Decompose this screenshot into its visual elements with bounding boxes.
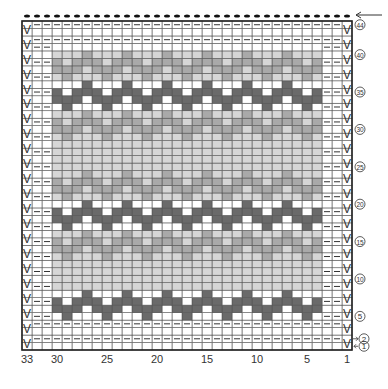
chart-cell: [192, 171, 202, 178]
chart-cell: [232, 126, 242, 133]
chart-cell: [62, 171, 72, 178]
chart-cell: [182, 268, 192, 275]
chart-cell: [182, 51, 192, 58]
chart-cell: [102, 96, 112, 103]
slip-stitch-symbol: V: [23, 157, 31, 171]
chart-cell: [102, 148, 112, 155]
chart-cell: [162, 283, 172, 290]
chart-cell: [222, 290, 232, 297]
chart-cell: [42, 126, 52, 133]
chart-cell: [272, 96, 282, 103]
chart-cell: [272, 43, 282, 50]
chart-cell: [172, 43, 182, 50]
chart-cell: [222, 133, 232, 140]
chart-cell: [272, 51, 282, 58]
chart-cell: [222, 268, 232, 275]
chart-cell: [242, 215, 252, 222]
chart-cell: [152, 28, 162, 35]
chart-cell: [112, 245, 122, 252]
slip-stitch-symbol: V: [343, 112, 351, 126]
chart-cell: [242, 141, 252, 148]
chart-cell: [182, 148, 192, 155]
chart-cell: [52, 96, 62, 103]
chart-cell: [212, 268, 222, 275]
bind-off-dot: [284, 14, 290, 17]
chart-cell: [142, 81, 152, 88]
chart-cell: [162, 253, 172, 260]
chart-cell: [72, 275, 82, 282]
chart-cell: [282, 141, 292, 148]
chart-cell: [172, 81, 182, 88]
chart-cell: [202, 133, 212, 140]
chart-cell: [152, 148, 162, 155]
chart-cell: [122, 163, 132, 170]
chart-cell: [182, 111, 192, 118]
chart-cell: [222, 193, 232, 200]
chart-cell: [162, 148, 172, 155]
chart-cell: [252, 290, 262, 297]
chart-cell: [82, 238, 92, 245]
chart-cell: [242, 193, 252, 200]
chart-cell: [172, 141, 182, 148]
chart-cell: [72, 103, 82, 110]
chart-cell: [212, 290, 222, 297]
chart-cell: [282, 133, 292, 140]
chart-cell: [272, 28, 282, 35]
chart-cell: [42, 141, 52, 148]
chart-cell: [82, 73, 92, 80]
chart-cell: [262, 103, 272, 110]
chart-cell: [172, 111, 182, 118]
chart-cell: [72, 88, 82, 95]
chart-cell: [142, 343, 152, 350]
chart-cell: [242, 275, 252, 282]
chart-cell: [302, 305, 312, 312]
chart-cell: [172, 133, 182, 140]
chart-cell: [112, 186, 122, 193]
chart-cell: [162, 28, 172, 35]
chart-cell: [292, 298, 302, 305]
chart-cell: [112, 141, 122, 148]
chart-cell: [182, 66, 192, 73]
chart-cell: [52, 186, 62, 193]
chart-cell: [82, 200, 92, 207]
chart-cell: [272, 328, 282, 335]
chart-cell: [252, 193, 262, 200]
chart-cell: [62, 260, 72, 267]
chart-cell: [232, 73, 242, 80]
chart-cell: [212, 343, 222, 350]
chart-cell: [272, 290, 282, 297]
slip-stitch-symbol: V: [343, 217, 351, 231]
chart-cell: [302, 193, 312, 200]
chart-cell: [222, 96, 232, 103]
chart-cell: [122, 283, 132, 290]
chart-cell: [192, 111, 202, 118]
bind-off-dot: [84, 14, 90, 17]
chart-cell: [72, 253, 82, 260]
chart-cell: [252, 88, 262, 95]
chart-cell: [132, 96, 142, 103]
chart-cell: [172, 230, 182, 237]
chart-cell: [162, 343, 172, 350]
chart-cell: [232, 96, 242, 103]
chart-cell: [72, 73, 82, 80]
chart-cell: [52, 103, 62, 110]
chart-cell: [132, 253, 142, 260]
chart-cell: [212, 126, 222, 133]
chart-cell: [312, 245, 322, 252]
chart-cell: [72, 290, 82, 297]
chart-cell: [212, 111, 222, 118]
chart-cell: [282, 88, 292, 95]
bind-off-dot: [274, 14, 280, 17]
chart-cell: [62, 230, 72, 237]
chart-cell: [202, 283, 212, 290]
slip-stitch-symbol: V: [23, 292, 31, 306]
chart-cell: [272, 133, 282, 140]
chart-cell: [82, 141, 92, 148]
chart-cell: [72, 126, 82, 133]
chart-cell: [282, 118, 292, 125]
chart-cell: [42, 245, 52, 252]
chart-cell: [102, 275, 112, 282]
chart-cell: [142, 200, 152, 207]
chart-cell: [72, 268, 82, 275]
knitting-chart: VVVVVVVVVVVVVVVVVVVVVVVVVVVVVVVVVVVVVVVV…: [0, 0, 388, 389]
